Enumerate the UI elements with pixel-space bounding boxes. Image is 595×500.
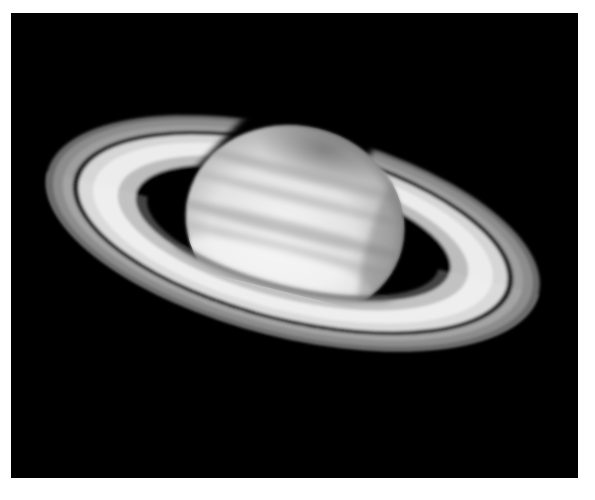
saturn-image (0, 0, 595, 500)
